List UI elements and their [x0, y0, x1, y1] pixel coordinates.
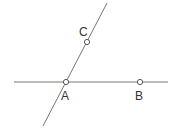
point-a	[63, 79, 68, 84]
label-b: B	[135, 89, 143, 103]
label-a: A	[61, 89, 69, 103]
point-b	[137, 79, 142, 84]
oblique-line	[43, 3, 107, 126]
geometry-diagram: A B C	[0, 0, 176, 129]
label-c: C	[79, 25, 88, 39]
point-c	[84, 39, 89, 44]
